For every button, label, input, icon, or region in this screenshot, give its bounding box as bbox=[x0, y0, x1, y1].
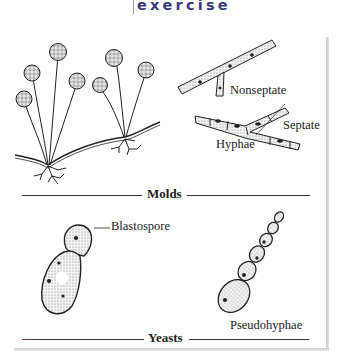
label-nonseptate: Nonseptate bbox=[230, 83, 286, 98]
budding-yeast-icon bbox=[42, 225, 92, 314]
figure-illustrations bbox=[0, 0, 344, 361]
molds-rule-left bbox=[22, 195, 142, 196]
label-pseudohyphae: Pseudohyphae bbox=[230, 318, 302, 333]
mold-sporangia-icon bbox=[15, 44, 160, 185]
yeasts-rule-right bbox=[189, 339, 309, 340]
label-hyphae: Hyphae bbox=[216, 137, 255, 152]
molds-rule-right bbox=[187, 195, 310, 196]
pseudohyphae-chain-icon bbox=[212, 210, 286, 319]
label-septate: Septate bbox=[283, 118, 320, 133]
section-title-yeasts: Yeasts bbox=[148, 330, 183, 346]
yeasts-rule-left bbox=[22, 339, 144, 340]
section-title-molds: Molds bbox=[147, 186, 182, 202]
label-blastospore: Blastospore bbox=[111, 219, 170, 234]
